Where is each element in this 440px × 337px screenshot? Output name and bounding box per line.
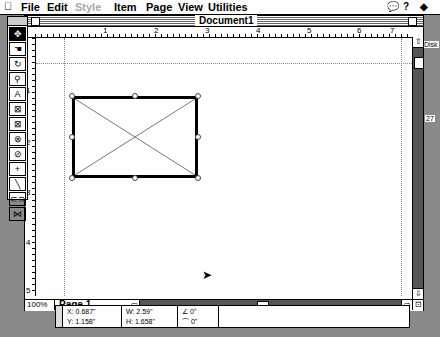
apple-menu-icon[interactable]: 	[4, 0, 12, 12]
close-box[interactable]	[31, 17, 40, 26]
content-tool-icon[interactable]: ☚	[9, 42, 26, 56]
rotation-angle-field[interactable]: ∠ 0°	[182, 307, 197, 316]
balloon-help-icon[interactable]: 💬	[387, 1, 399, 13]
document-window: Document1 1 2 3 4 5 6 7 1 2 3 4 5	[24, 15, 424, 311]
zoom-tool-icon[interactable]: ⚲	[9, 72, 26, 86]
orthogonal-line-tool-icon[interactable]: +	[9, 162, 26, 176]
scroll-down-arrow-icon[interactable]: ⇩	[413, 288, 423, 299]
zoom-percent-field[interactable]: 100%	[25, 300, 55, 310]
margin-guide	[36, 63, 412, 64]
menu-style[interactable]: Style	[75, 0, 101, 14]
menu-edit[interactable]: Edit	[47, 0, 68, 14]
text-box-tool-icon[interactable]: A	[9, 87, 26, 101]
oval-picture-box-tool-icon[interactable]: ⊗	[9, 132, 26, 146]
vertical-scrollbar[interactable]: ⇧ ⇩	[412, 37, 423, 299]
arrow-cursor-icon: ➤	[202, 268, 212, 282]
resize-handle[interactable]	[132, 175, 138, 181]
menu-utilities[interactable]: Utilities	[208, 0, 248, 14]
palette-title-bar[interactable]	[8, 17, 27, 26]
vertical-scroll-thumb[interactable]	[414, 57, 424, 69]
grow-box[interactable]: ⊡	[412, 300, 423, 310]
disk-label[interactable]: Disk	[423, 41, 439, 48]
empty-picture-x-icon	[75, 99, 195, 175]
horizontal-ruler: 1 2 3 4 5 6 7	[35, 27, 413, 38]
item-tool-icon[interactable]: ✥	[9, 27, 26, 41]
menu-page[interactable]: Page	[146, 0, 172, 14]
resize-handle[interactable]	[195, 93, 201, 99]
height-field[interactable]: H: 1.658"	[126, 317, 155, 326]
menu-bar:  File Edit Style Item Page View Utiliti…	[0, 0, 440, 15]
menu-item[interactable]: Item	[114, 0, 137, 14]
palette-title-bar[interactable]	[56, 306, 63, 327]
title-bar[interactable]: Document1	[25, 16, 423, 27]
picture-box[interactable]	[72, 96, 198, 178]
angle-fields: ∠ 0° ⌒ 0"	[178, 306, 219, 327]
resize-handle[interactable]	[69, 134, 75, 140]
measurements-palette: X: 0.687" Y: 1.158" W: 2.59" H: 1.658" ∠…	[55, 305, 410, 328]
help-icon[interactable]: ?	[403, 1, 409, 13]
margin-guide	[401, 38, 402, 296]
window-title: Document1	[195, 15, 257, 26]
desktop-side-label: 27	[425, 115, 435, 122]
resize-handle[interactable]	[195, 175, 201, 181]
tool-palette: ✥ ☚ ↻ ⚲ A ⊠ ⊠ ⊗ ⊘ + ╲ ⊂⊃ ⋈	[7, 16, 28, 200]
x-field[interactable]: X: 0.687"	[67, 307, 96, 316]
corner-radius-field[interactable]: ⌒ 0"	[182, 317, 197, 326]
size-fields: W: 2.59" H: 1.658"	[122, 306, 178, 327]
scroll-up-arrow-icon[interactable]: ⇧	[413, 37, 423, 48]
menu-view[interactable]: View	[178, 0, 203, 14]
unlinking-tool-icon[interactable]: ⋈	[9, 207, 26, 221]
application-menu-icon[interactable]: ◆	[420, 1, 428, 13]
rotate-tool-icon[interactable]: ↻	[9, 57, 26, 71]
width-field[interactable]: W: 2.59"	[126, 307, 152, 316]
y-field[interactable]: Y: 1.158"	[67, 317, 95, 326]
menu-file[interactable]: File	[21, 0, 40, 14]
line-tool-icon[interactable]: ╲	[9, 177, 26, 191]
zoom-box[interactable]	[408, 17, 417, 26]
linking-tool-icon[interactable]: ⊂⊃	[9, 192, 26, 206]
margin-guide	[64, 38, 65, 296]
page-canvas[interactable]: ➤	[36, 38, 412, 296]
polygon-picture-box-tool-icon[interactable]: ⊘	[9, 147, 26, 161]
position-fields: X: 0.687" Y: 1.158"	[63, 306, 122, 327]
resize-handle[interactable]	[69, 175, 75, 181]
resize-handle[interactable]	[195, 134, 201, 140]
rectangle-picture-box-tool-icon[interactable]: ⊠	[9, 102, 26, 116]
rounded-picture-box-tool-icon[interactable]: ⊠	[9, 117, 26, 131]
resize-handle[interactable]	[132, 93, 138, 99]
resize-handle[interactable]	[69, 93, 75, 99]
